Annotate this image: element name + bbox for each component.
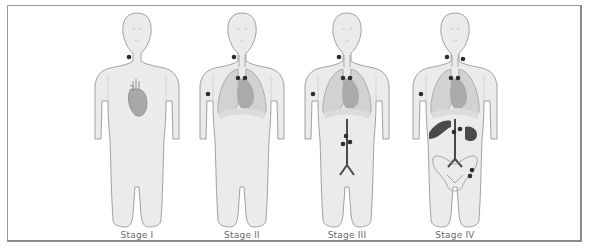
lymph-node (456, 76, 461, 81)
lymph-node (449, 76, 454, 81)
lymph-node (344, 134, 349, 139)
lymph-node (419, 92, 424, 97)
figure-stage-1 (95, 13, 179, 227)
staging-illustration (0, 0, 592, 249)
lymph-node (341, 76, 346, 81)
figure-stage-2 (200, 13, 284, 227)
stage-1-label: Stage I (121, 230, 154, 240)
lymph-node (348, 76, 353, 81)
lymph-node (470, 168, 475, 173)
stage-3-label: Stage III (328, 230, 367, 240)
lymph-node (127, 55, 132, 60)
lymph-node (236, 76, 241, 81)
lymph-node (458, 127, 463, 132)
lymph-node (341, 142, 346, 147)
figure-stage-3 (305, 13, 389, 227)
lymph-node (311, 92, 316, 97)
stage-2-label: Stage II (224, 230, 260, 240)
lymph-node (452, 130, 457, 135)
lymph-node (243, 76, 248, 81)
stage-4-label: Stage IV (435, 230, 474, 240)
lymph-node (348, 140, 353, 145)
lymph-node (468, 174, 473, 179)
lymph-node (445, 55, 450, 60)
figure-stage-4 (413, 13, 497, 227)
lymph-node (337, 55, 342, 60)
lymph-node (461, 57, 466, 62)
lymph-node (206, 92, 211, 97)
lymph-node (232, 55, 237, 60)
